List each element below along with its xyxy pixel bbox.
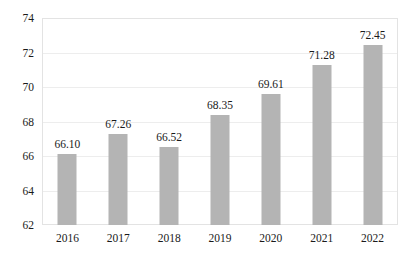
y-tick-label: 74: [0, 12, 34, 24]
x-tick-label: 2016: [42, 231, 93, 245]
y-tick-label: 62: [0, 219, 34, 231]
bar-value-label: 67.26: [105, 118, 131, 130]
x-tick-label: 2018: [144, 231, 195, 245]
y-tick-label: 70: [0, 81, 34, 93]
bar-slot: 67.26: [93, 18, 144, 225]
bar-slot: 66.10: [42, 18, 93, 225]
x-axis-tick-labels: 2016201720182019202020212022: [42, 231, 398, 249]
bar-slot: 71.28: [296, 18, 347, 225]
bar: [261, 94, 280, 225]
x-tick-label: 2019: [195, 231, 246, 245]
bar: [109, 134, 128, 225]
y-tick-label: 72: [0, 47, 34, 59]
bar-slot: 72.45: [347, 18, 398, 225]
bar-slot: 69.61: [245, 18, 296, 225]
bar-value-label: 68.35: [207, 99, 233, 111]
bar-value-label: 66.10: [54, 138, 80, 150]
bar: [312, 65, 331, 225]
bar-chart: 62646668707274 66.1067.2666.5268.3569.61…: [0, 0, 415, 265]
bars-layer: 66.1067.2666.5268.3569.6171.2872.45: [42, 18, 398, 225]
y-tick-label: 64: [0, 185, 34, 197]
x-tick-label: 2020: [245, 231, 296, 245]
x-tick-label: 2022: [347, 231, 398, 245]
bar-value-label: 71.28: [309, 49, 335, 61]
bar: [160, 147, 179, 225]
bar: [58, 154, 77, 225]
x-tick-label: 2017: [93, 231, 144, 245]
bar: [363, 45, 382, 225]
bar-slot: 68.35: [195, 18, 246, 225]
bar-value-label: 72.45: [360, 29, 386, 41]
bar-value-label: 66.52: [156, 131, 182, 143]
y-tick-label: 68: [0, 116, 34, 128]
bar: [210, 115, 229, 225]
bar-value-label: 69.61: [258, 78, 284, 90]
bar-slot: 66.52: [144, 18, 195, 225]
y-tick-label: 66: [0, 150, 34, 162]
x-tick-label: 2021: [296, 231, 347, 245]
